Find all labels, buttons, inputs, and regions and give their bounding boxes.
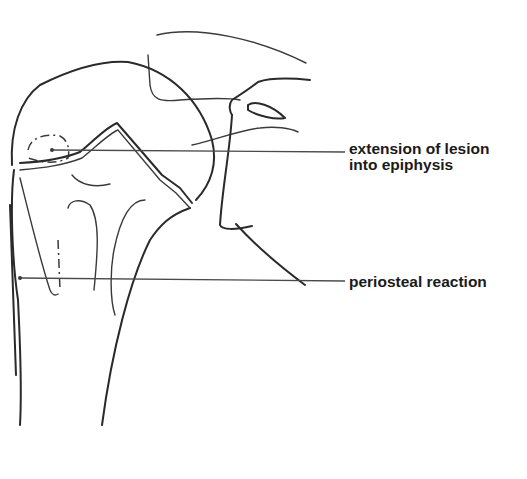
label-line-1: periosteal reaction (349, 274, 487, 290)
label-line-2: into epiphysis (349, 157, 489, 173)
leader-point-epiphysis (50, 148, 54, 152)
label-extension-of-lesion: extension of lesion into epiphysis (349, 141, 489, 173)
lower-right-outline (236, 224, 305, 285)
right-structure-top (230, 79, 310, 115)
shaft-inner-curve-2 (68, 201, 97, 290)
foramen-ellipse (248, 103, 285, 118)
upper-outline (157, 32, 306, 63)
shaft-inner-dashed (58, 240, 60, 290)
vertical-outline (220, 115, 252, 229)
growth-plate-inner (20, 130, 190, 208)
label-periosteal-reaction: periosteal reaction (349, 274, 487, 290)
bone-diagram (0, 0, 527, 479)
label-line-1: extension of lesion (349, 141, 489, 157)
shaft-right-outline (102, 208, 190, 425)
epiphysis-outline (12, 62, 214, 200)
leader-line-epiphysis (52, 150, 345, 152)
epiphysis-inner-curve (72, 175, 110, 186)
upper-inner-outline (148, 55, 240, 101)
leader-point-periosteal (18, 276, 22, 280)
